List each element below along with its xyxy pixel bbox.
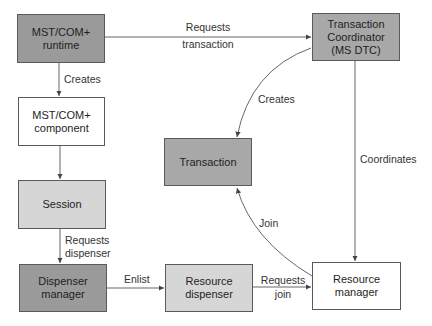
node-mst-com-runtime: MST/COM+ runtime bbox=[17, 14, 105, 63]
edge-label-line: dispenser bbox=[65, 247, 111, 260]
node-label: Dispenser bbox=[38, 275, 88, 288]
edge-label-coordinates: Coordinates bbox=[360, 153, 417, 166]
edge-label-enlist: Enlist bbox=[124, 273, 150, 286]
node-label: Transaction bbox=[327, 18, 384, 31]
node-label: runtime bbox=[32, 39, 90, 52]
node-label: MST/COM+ bbox=[32, 109, 90, 122]
edge-label-line: join bbox=[255, 288, 311, 301]
node-session: Session bbox=[18, 180, 106, 229]
node-label: (MS DTC) bbox=[327, 44, 384, 57]
edge-label-creates-component: Creates bbox=[64, 73, 101, 86]
edge-label-line: Requests bbox=[255, 274, 311, 287]
edge-label-line: transaction bbox=[178, 38, 238, 51]
node-label: MST/COM+ bbox=[32, 26, 90, 39]
node-label: manager bbox=[38, 288, 88, 301]
node-label: Session bbox=[42, 198, 81, 211]
node-dispenser-manager: Dispenser manager bbox=[19, 264, 107, 312]
edge-label-requests-join: Requests join bbox=[255, 274, 311, 301]
edge-label-join: Join bbox=[259, 217, 278, 230]
edge-label-line: Requests bbox=[65, 234, 111, 247]
node-resource-dispenser: Resource dispenser bbox=[165, 264, 253, 312]
node-label: Resource bbox=[333, 273, 380, 286]
node-resource-manager: Resource manager bbox=[312, 262, 401, 310]
node-label: Resource bbox=[185, 275, 233, 288]
node-label: dispenser bbox=[185, 288, 233, 301]
node-label: Transaction bbox=[179, 156, 236, 169]
edge-label-requests-dispenser: Requests dispenser bbox=[65, 234, 111, 260]
node-transaction-coordinator: Transaction Coordinator (MS DTC) bbox=[312, 13, 400, 61]
node-label: component bbox=[32, 122, 90, 135]
node-label: Coordinator bbox=[327, 31, 384, 44]
edge-label-line: Requests bbox=[178, 21, 238, 34]
node-transaction: Transaction bbox=[164, 138, 252, 186]
node-mst-com-component: MST/COM+ component bbox=[18, 97, 105, 146]
node-label: manager bbox=[333, 286, 380, 299]
edge-label-requests-transaction: Requests transaction bbox=[178, 21, 238, 51]
edge-label-creates-transaction: Creates bbox=[258, 93, 295, 106]
